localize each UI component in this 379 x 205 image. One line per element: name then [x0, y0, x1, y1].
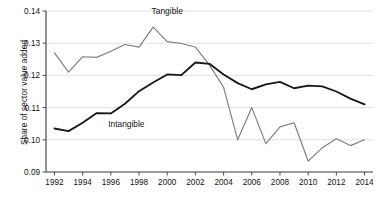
x-tick-label: 1998	[130, 178, 149, 187]
y-tick-label: 0.09	[24, 168, 40, 177]
series-line-tangible	[54, 27, 364, 161]
y-tick-label: 0.11	[25, 104, 41, 113]
x-tick-label: 2004	[214, 178, 233, 187]
x-tick-label: 1996	[102, 178, 121, 187]
y-tick-label: 0.10	[24, 136, 40, 145]
x-tick-label: 1992	[45, 178, 64, 187]
gridline-group	[46, 11, 373, 140]
x-tick-label: 2010	[299, 178, 318, 187]
series-line-group	[54, 27, 364, 161]
series-label-group: TangibleIntangible	[108, 6, 183, 129]
series-label-intangible: Intangible	[108, 119, 145, 129]
series-line-intangible	[54, 63, 364, 132]
y-tick-label: 0.13	[24, 39, 40, 48]
x-tick-label-group: 1992199419961998200020022004200620082010…	[45, 178, 374, 187]
line-chart-plot: 0.090.100.110.120.130.14 199219941996199…	[0, 0, 379, 205]
x-tick-label: 2008	[271, 178, 290, 187]
x-tick-label: 2006	[243, 178, 262, 187]
tick-mark-group	[43, 11, 365, 176]
chart-figure: Share of sector value added 0.090.100.11…	[0, 0, 379, 205]
x-tick-label: 2012	[327, 178, 346, 187]
series-label-tangible: Tangible	[152, 6, 184, 16]
x-tick-label: 2002	[186, 178, 205, 187]
y-tick-label-group: 0.090.100.110.120.130.14	[24, 7, 40, 177]
y-tick-label: 0.12	[24, 71, 40, 80]
x-tick-label: 2014	[355, 178, 374, 187]
y-tick-label: 0.14	[24, 7, 40, 16]
x-tick-label: 1994	[74, 178, 93, 187]
x-tick-label: 2000	[158, 178, 177, 187]
